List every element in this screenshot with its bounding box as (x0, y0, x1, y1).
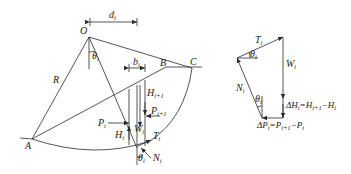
line-OC (89, 37, 192, 68)
label-A: A (25, 141, 31, 151)
poly-label-dP: ΔPi=Pi+1−Pi (257, 121, 304, 132)
slice-method-diagram (0, 0, 351, 174)
poly-label-T: Ti (255, 35, 262, 47)
label-P-i1: Pi+1 (151, 106, 167, 118)
label-H-i1: Hi+1 (147, 88, 164, 100)
poly-label-dH: ΔHi=Hi+1−Hi (286, 101, 336, 112)
label-P-i: Pi (98, 118, 106, 130)
label-W-i: Wi (134, 124, 144, 136)
label-theta-bottom: θi (138, 153, 145, 165)
label-B: B (160, 58, 166, 68)
label-R: R (53, 75, 59, 85)
label-O: O (80, 26, 87, 36)
poly-label-theta-bottom: θi (255, 94, 262, 106)
poly-label-N: Ni (236, 83, 244, 95)
label-theta-top: θi (92, 51, 99, 63)
label-b: bi (133, 57, 140, 69)
label-T-i: Ti (153, 131, 160, 143)
poly-label-W: Wi (286, 59, 296, 71)
label-C: C (190, 57, 197, 67)
poly-label-theta-top: θi (250, 49, 257, 61)
toe-ground (20, 138, 32, 139)
label-d: di (109, 10, 116, 22)
force-polygon (237, 37, 283, 118)
label-H-i: Hi (115, 130, 124, 142)
label-N-i: Ni (153, 153, 161, 165)
